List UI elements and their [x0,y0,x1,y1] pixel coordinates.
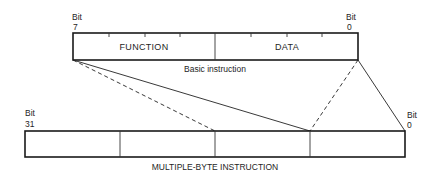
multiple-byte-instruction-caption: MULTIPLE-BYTE INSTRUCTION [152,162,278,172]
connector-solid-right [358,60,405,131]
multi-right-bit-number: 0 [407,120,412,130]
basic-right-bit-label: Bit [346,12,357,22]
multi-right-bit-label: Bit [407,110,418,120]
basic-left-bit-number: 7 [73,22,78,32]
instruction-format-diagram: Bit 7 Bit 0 FUNCTION DATA Basic instruct… [0,0,440,181]
basic-instruction-caption: Basic instruction [184,64,246,74]
data-field-label: DATA [275,42,299,52]
multi-left-bit-number: 31 [25,119,35,129]
basic-right-bit-number: 0 [347,22,352,32]
basic-left-bit-label: Bit [72,12,83,22]
connector-dashed-right [310,60,358,131]
function-field-label: FUNCTION [120,42,169,52]
multi-left-bit-label: Bit [25,108,36,118]
basic-instruction-group: Bit 7 Bit 0 FUNCTION DATA Basic instruct… [72,12,358,74]
multiple-byte-instruction-group: Bit 31 Bit 0 MULTIPLE-BYTE INSTRUCTION [25,108,418,172]
basic-instruction-box [73,33,358,60]
